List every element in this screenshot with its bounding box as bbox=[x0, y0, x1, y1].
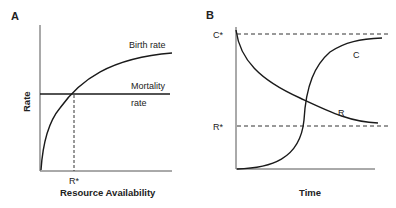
c-curve-label: C bbox=[353, 50, 360, 60]
figure: A Birth rate Mortality rate Rate R* Reso… bbox=[0, 0, 396, 208]
c-star-tick: C* bbox=[213, 30, 223, 40]
panel-a-label: A bbox=[11, 10, 19, 22]
panel-b-x-axis-label: Time bbox=[299, 187, 321, 198]
panel-b: B C* R* C R Time bbox=[206, 9, 388, 198]
panel-a-x-axis-label: Resource Availability bbox=[60, 187, 156, 198]
panel-a: A Birth rate Mortality rate Rate R* Reso… bbox=[11, 10, 172, 198]
r-curve-label: R bbox=[338, 108, 345, 118]
panel-b-label: B bbox=[206, 9, 214, 21]
birth-rate-label: Birth rate bbox=[129, 40, 166, 50]
panel-a-y-axis-label: Rate bbox=[21, 91, 32, 112]
birth-rate-curve bbox=[41, 53, 172, 170]
panel-a-r-star-tick: R* bbox=[69, 176, 79, 186]
r-curve bbox=[236, 30, 378, 123]
mortality-label: Mortality bbox=[131, 81, 166, 91]
r-star-tick: R* bbox=[213, 122, 223, 132]
mortality-rate-label: rate bbox=[131, 98, 147, 108]
c-curve bbox=[237, 38, 382, 169]
